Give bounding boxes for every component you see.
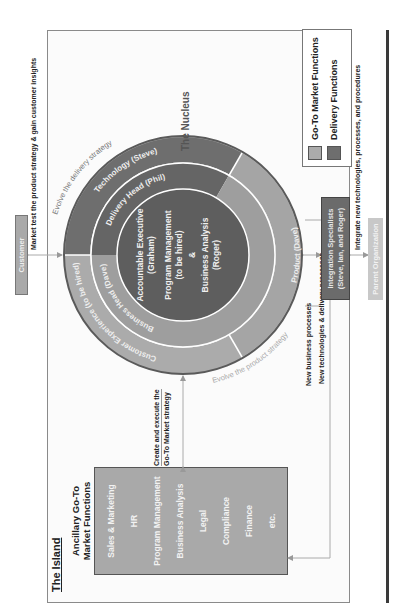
diagram-canvas: The Island Ancillary Go-To Market Functi… [0, 0, 395, 606]
integrate-label: Integrate new technologies, processes, a… [354, 65, 361, 250]
svg-text:Evolve the product strategy: Evolve the product strategy [211, 330, 289, 385]
market-test-label: Market test the product strategy & gain … [30, 58, 37, 250]
nucleus-title: The Nucleus [180, 92, 191, 151]
legend: Go-To Market Functions Delivery Function… [302, 29, 352, 167]
legend-item-gtm: Go-To Market Functions [308, 36, 322, 160]
arc-labels: Evolve the delivery strategy Evolve the … [43, 115, 323, 395]
parent-organization-box: Parent Organization [368, 218, 383, 300]
customer-box: Customer [15, 215, 28, 295]
new-business-label: New business processes [305, 303, 312, 386]
create-execute-label: Create and execute the Go-To Market stra… [152, 389, 171, 466]
delivery-strategy-label: Evolve the delivery strategy [50, 138, 113, 216]
svg-text:Evolve the delivery strategy: Evolve the delivery strategy [50, 138, 113, 216]
delivery-swatch [327, 146, 341, 160]
integration-specialists-box: Integration Specialists (Steve, Ian, and… [321, 197, 350, 300]
product-strategy-label: Evolve the product strategy [211, 330, 289, 385]
legend-item-delivery: Delivery Functions [327, 36, 341, 160]
gtm-swatch [308, 146, 322, 160]
